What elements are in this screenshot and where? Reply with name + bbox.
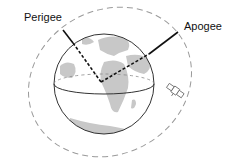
earth-globe xyxy=(54,34,154,140)
apogee-label: Apogee xyxy=(184,20,222,32)
satellite-icon xyxy=(164,83,184,102)
perigee-label: Perigee xyxy=(24,11,62,23)
